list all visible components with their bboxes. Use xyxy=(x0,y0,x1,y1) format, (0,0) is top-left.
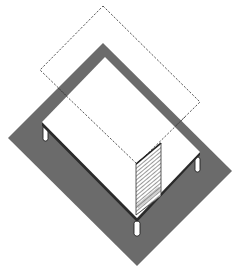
table-leg-front xyxy=(134,221,140,236)
table-illustration xyxy=(0,0,238,279)
diagram-canvas: Isometric table on ground footprint with… xyxy=(0,0,238,279)
